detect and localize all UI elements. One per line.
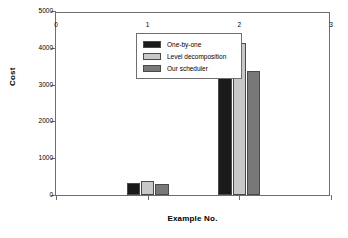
plot-area: 010002000300040005000 0123 One-by-oneLev… <box>55 12 330 196</box>
x-axis-tick-mark <box>148 195 149 200</box>
legend-item-label: Our scheduler <box>167 65 208 73</box>
legend-item-label: One-by-one <box>167 41 201 49</box>
y-axis-tick-label: 1000 <box>39 153 53 162</box>
y-axis-tick-label: 3000 <box>39 80 53 89</box>
x-axis-tick-mark <box>331 195 332 200</box>
legend-item-label: Level decomposition <box>167 53 226 61</box>
x-axis-tick-label: 3 <box>329 20 333 29</box>
y-axis-tick-label: 0 <box>49 190 53 199</box>
x-axis-tick-mark <box>239 195 240 200</box>
legend-item: Level decomposition <box>143 51 235 62</box>
bar <box>141 181 154 195</box>
legend-swatch-icon <box>143 53 161 60</box>
x-axis-tick-label: 0 <box>54 20 58 29</box>
legend-item: Our scheduler <box>143 63 235 74</box>
chart-legend: One-by-oneLevel decompositionOur schedul… <box>136 33 242 79</box>
y-axis-tick-label: 5000 <box>39 6 53 15</box>
bar <box>127 183 140 195</box>
x-axis-tick-label: 1 <box>146 20 150 29</box>
bar <box>155 184 168 195</box>
bar-chart-figure: 010002000300040005000 0123 One-by-oneLev… <box>0 0 348 238</box>
legend-item: One-by-one <box>143 39 235 50</box>
y-axis-tick-label: 4000 <box>39 43 53 52</box>
x-axis-title: Example No. <box>55 214 330 223</box>
legend-swatch-icon <box>143 65 161 72</box>
x-axis-tick-label: 2 <box>238 20 242 29</box>
y-axis-title: Cost <box>8 67 17 86</box>
bar <box>247 71 260 195</box>
x-axis-tick-mark <box>56 195 57 200</box>
legend-swatch-icon <box>143 41 161 48</box>
y-axis-tick-label: 2000 <box>39 116 53 125</box>
